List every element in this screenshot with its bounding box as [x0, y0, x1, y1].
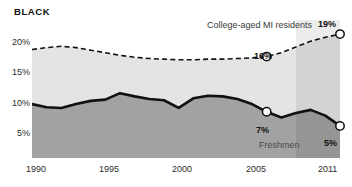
- series-label-freshmen: Freshmen: [259, 141, 300, 150]
- series-label-college-aged: College-aged MI residents: [207, 21, 312, 30]
- chart-container: BLACK 20% 15% 10% 5% 1990 1995 2000 2005…: [0, 0, 352, 187]
- data-point-marker: [336, 122, 344, 130]
- data-point-marker: [336, 30, 344, 38]
- value-label-freshmen-2011: 5%: [324, 139, 337, 148]
- data-point-marker: [262, 108, 270, 116]
- value-label-freshmen-2006: 7%: [256, 126, 269, 135]
- value-label-college-aged-2006: 16%: [254, 52, 272, 61]
- value-label-college-aged-2011: 19%: [318, 20, 336, 29]
